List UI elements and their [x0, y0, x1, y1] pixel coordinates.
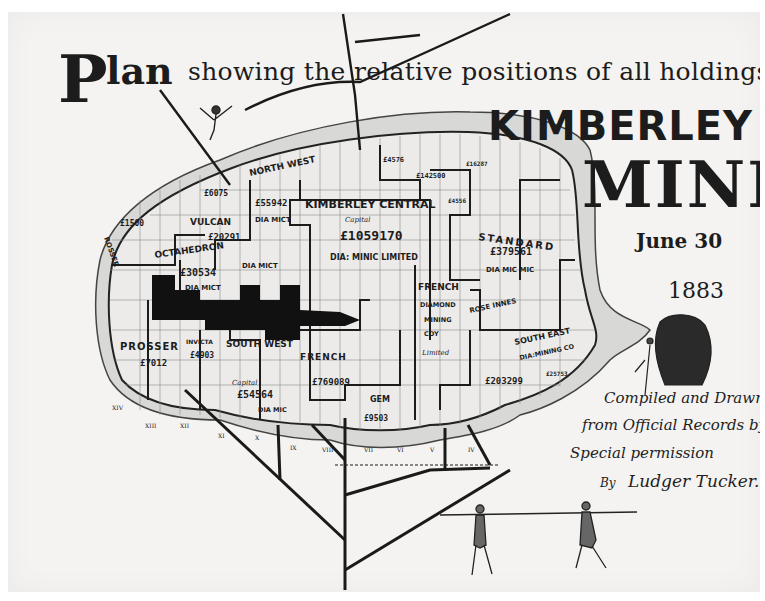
svg-text:MINING: MINING [424, 316, 452, 324]
figure-top-left [200, 106, 232, 140]
svg-text:£203299: £203299 [485, 376, 523, 386]
svg-text:Capital: Capital [345, 216, 370, 224]
svg-text:XII: XII [180, 422, 190, 429]
svg-text:DIAMOND: DIAMOND [420, 301, 456, 309]
svg-text:£4556: £4556 [448, 197, 466, 204]
svg-text:IX: IX [290, 444, 297, 451]
pole-bearers [440, 502, 637, 575]
label-french-diamond: FRENCH [418, 282, 459, 292]
svg-text:DIA MICT: DIA MICT [185, 284, 221, 292]
svg-text:DIA MIC MIC: DIA MIC MIC [486, 266, 534, 274]
svg-text:£30534: £30534 [180, 267, 216, 278]
label-south-west: SOUTH WEST [226, 339, 294, 349]
title-plan: lan [106, 48, 173, 93]
credit-line1: Compiled and Drawn [604, 389, 760, 407]
label-gem: GEM [370, 395, 390, 404]
svg-text:XIII: XIII [145, 422, 157, 429]
svg-text:£6075: £6075 [204, 189, 228, 198]
svg-text:COY: COY [424, 330, 439, 338]
title-kimberley: KIMBERLEY [488, 103, 753, 149]
svg-text:DIA MICT: DIA MICT [255, 216, 291, 224]
kimberley-mine-plan: P lan showing the relative positions of … [8, 12, 760, 592]
svg-text:VI: VI [396, 446, 404, 453]
label-prosser: PROSSER [120, 341, 179, 352]
svg-text:£769089: £769089 [312, 377, 350, 387]
svg-text:DIA MIC: DIA MIC [258, 406, 287, 414]
svg-text:£142500: £142500 [416, 172, 446, 180]
svg-text:£4903: £4903 [190, 351, 214, 360]
svg-text:DIA MICT: DIA MICT [242, 262, 278, 270]
label-french: FRENCH [300, 352, 347, 362]
svg-text:£1059170: £1059170 [340, 228, 403, 243]
title-mine: MINE [582, 147, 760, 222]
svg-text:£1500: £1500 [120, 219, 144, 228]
svg-text:£7012: £7012 [140, 358, 167, 368]
svg-text:£4576: £4576 [383, 156, 404, 164]
credit-by: By [599, 476, 616, 490]
svg-text:Limited: Limited [421, 349, 450, 357]
svg-text:IV: IV [468, 446, 475, 453]
svg-text:£20291: £20291 [208, 232, 241, 242]
svg-text:£25753: £25753 [546, 370, 568, 377]
label-kimberley-central: KIMBERLEY CENTRAL [305, 198, 436, 211]
credit-line2: from Official Records by [581, 416, 760, 434]
svg-text:X: X [255, 434, 260, 441]
svg-text:VIII: VIII [321, 446, 334, 453]
svg-text:XI: XI [218, 432, 225, 439]
title-line1: showing the relative positions of all ho… [188, 57, 760, 86]
svg-text:£9503: £9503 [364, 414, 388, 423]
credit-line3: Special permission [570, 444, 714, 462]
svg-text:V: V [429, 446, 435, 453]
label-vulcan: VULCAN [190, 217, 231, 227]
svg-text:£16287: £16287 [466, 160, 488, 167]
label-invicta: INVICTA [186, 338, 213, 345]
map-sheet: P lan showing the relative positions of … [8, 12, 760, 592]
svg-text:XIV: XIV [112, 404, 124, 411]
title-year: 1883 [668, 278, 724, 303]
title-date: June 30 [634, 229, 722, 253]
svg-text:£54564: £54564 [237, 389, 273, 400]
svg-text:DIA: MINIC LIMITED: DIA: MINIC LIMITED [330, 253, 418, 262]
svg-text:£379561: £379561 [490, 246, 532, 257]
credit-name: Ludger Tucker. [627, 471, 759, 491]
svg-text:VII: VII [363, 446, 374, 453]
title-initial: P [58, 40, 108, 118]
svg-text:£55942: £55942 [255, 198, 288, 208]
svg-text:Capital: Capital [232, 379, 257, 387]
